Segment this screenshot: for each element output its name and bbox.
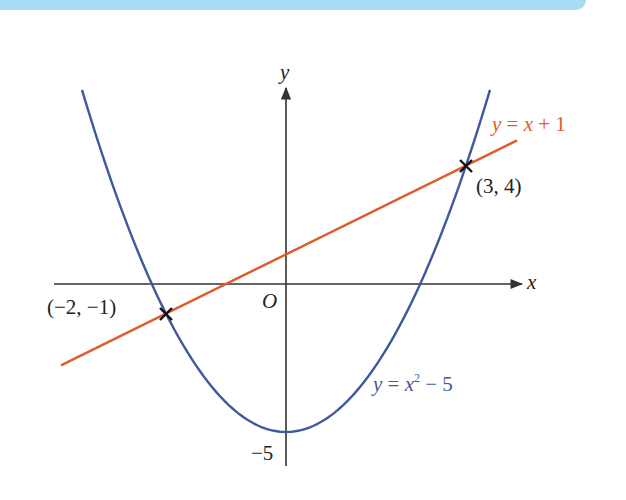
x-axis-label: x	[527, 272, 536, 293]
line-equation-label: y = x + 1	[492, 114, 566, 135]
line-eq-rest: + 1	[533, 112, 566, 136]
graph-canvas	[0, 0, 626, 500]
parabola-eq-equals: =	[382, 372, 404, 396]
parabola-equation-label: y = x2 − 5	[373, 372, 453, 395]
parabola-eq-y: y	[373, 372, 382, 396]
line-eq-y: y	[492, 112, 501, 136]
line-eq-equals: =	[501, 112, 523, 136]
origin-label: O	[262, 291, 277, 312]
line-eq-x: x	[524, 112, 533, 136]
parabola-eq-rest: − 5	[420, 372, 453, 396]
cross-marker-neg2-neg1	[160, 308, 172, 320]
y-axis-label: y	[280, 62, 289, 83]
point-label-neg2-neg1: (−2, −1)	[47, 297, 116, 318]
y-tick-label-neg5: −5	[251, 443, 273, 464]
cross-marker-3-4	[460, 160, 472, 172]
point-label-3-4: (3, 4)	[476, 176, 522, 197]
line-curve	[61, 140, 517, 365]
parabola-eq-x: x	[405, 372, 414, 396]
